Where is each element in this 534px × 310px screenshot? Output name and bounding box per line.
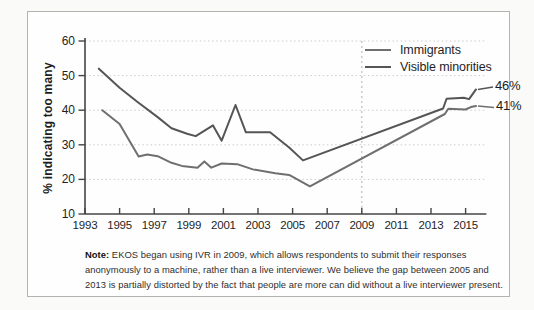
svg-text:60: 60 [62, 34, 76, 48]
svg-text:1993: 1993 [73, 219, 98, 231]
legend-item-immigrants: Immigrants [365, 41, 492, 58]
svg-text:2013: 2013 [419, 219, 444, 231]
footnote-text: EKOS began using IVR in 2009, which allo… [85, 249, 503, 290]
svg-text:30: 30 [62, 138, 76, 152]
visible-minorities-line-swatch [365, 66, 391, 68]
chart-figure: 6050403020101993199519971999200120032005… [27, 11, 510, 297]
footnote-label: Note: [85, 249, 109, 260]
end-value-label-visible-minorities: 46% [495, 78, 520, 93]
svg-text:2003: 2003 [246, 219, 271, 231]
svg-text:50: 50 [62, 69, 76, 83]
svg-text:40: 40 [62, 103, 76, 117]
legend-label-visible-minorities: Visible minorities [400, 60, 492, 74]
y-axis-title: % indicating too many [41, 62, 55, 194]
svg-text:1997: 1997 [142, 219, 167, 231]
svg-text:2001: 2001 [211, 219, 236, 231]
svg-text:20: 20 [62, 172, 76, 186]
footnote: Note: EKOS began using IVR in 2009, whic… [85, 247, 511, 293]
end-value-label-immigrants: 41% [496, 98, 521, 113]
svg-text:2011: 2011 [384, 219, 408, 231]
immigrants-line-swatch [365, 49, 391, 51]
legend-item-visible-minorities: Visible minorities [365, 58, 492, 75]
svg-text:2005: 2005 [280, 219, 305, 231]
legend-label-immigrants: Immigrants [400, 43, 461, 57]
svg-text:2015: 2015 [453, 219, 478, 231]
chart-legend: Immigrants Visible minorities [365, 41, 492, 75]
svg-text:1999: 1999 [176, 219, 201, 231]
svg-text:1995: 1995 [107, 219, 132, 231]
svg-text:2009: 2009 [349, 219, 374, 231]
svg-text:2007: 2007 [315, 219, 340, 231]
